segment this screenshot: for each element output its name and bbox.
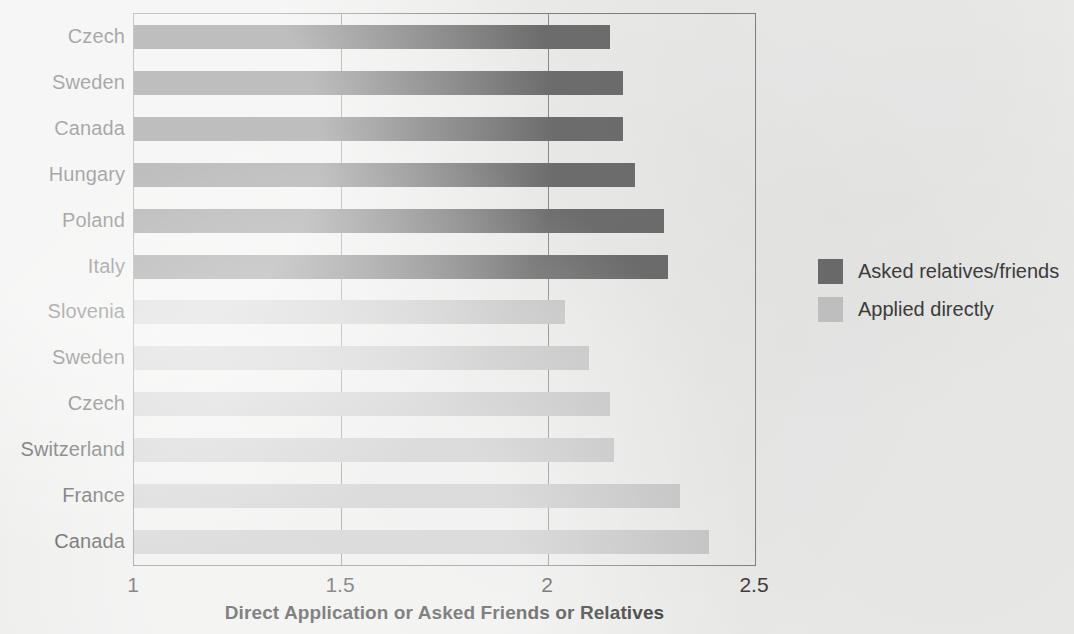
bar-row: [134, 438, 755, 462]
legend-label: Applied directly: [858, 297, 994, 321]
bar-row: [134, 25, 755, 49]
category-label: Poland: [0, 208, 125, 232]
category-label: Canada: [0, 116, 125, 140]
legend-item[interactable]: Asked relatives/friends: [818, 252, 1068, 290]
category-label: Czech: [0, 391, 125, 415]
category-axis-labels: CzechSwedenCanadaHungaryPolandItalySlove…: [0, 13, 125, 566]
gridline: [341, 14, 342, 565]
bar-row: [134, 255, 755, 279]
category-label: Slovenia: [0, 299, 125, 323]
bar-row: [134, 392, 755, 416]
category-label: France: [0, 483, 125, 507]
bar[interactable]: [134, 530, 709, 554]
bar-row: [134, 209, 755, 233]
plot-area: [133, 13, 756, 566]
legend-swatch-icon: [818, 259, 843, 284]
bar[interactable]: [134, 346, 589, 370]
bar[interactable]: [134, 484, 680, 508]
bar-row: [134, 71, 755, 95]
category-label: Hungary: [0, 162, 125, 186]
x-tick-label: 1: [127, 572, 139, 598]
category-label: Canada: [0, 529, 125, 553]
bar[interactable]: [134, 209, 664, 233]
bar-row: [134, 300, 755, 324]
legend-label: Asked relatives/friends: [858, 259, 1059, 283]
x-tick-label: 2.5: [739, 572, 768, 598]
category-label: Italy: [0, 254, 125, 278]
bar-row: [134, 163, 755, 187]
x-tick-label: 2: [541, 572, 553, 598]
bar-row: [134, 346, 755, 370]
bar[interactable]: [134, 25, 610, 49]
bar[interactable]: [134, 300, 565, 324]
bar[interactable]: [134, 163, 635, 187]
category-label: Switzerland: [0, 437, 125, 461]
bar-row: [134, 530, 755, 554]
legend-item[interactable]: Applied directly: [818, 290, 1068, 328]
bar[interactable]: [134, 438, 614, 462]
bar-row: [134, 484, 755, 508]
x-tick-label: 1.5: [325, 572, 354, 598]
bar[interactable]: [134, 255, 668, 279]
bar[interactable]: [134, 392, 610, 416]
bar[interactable]: [134, 71, 623, 95]
x-axis-tick-labels: 11.522.5: [133, 572, 756, 600]
gridline: [548, 14, 549, 565]
bar[interactable]: [134, 117, 623, 141]
x-axis-title: Direct Application or Asked Friends or R…: [133, 602, 756, 624]
category-label: Sweden: [0, 345, 125, 369]
bar-row: [134, 117, 755, 141]
chart-legend: Asked relatives/friendsApplied directly: [818, 252, 1068, 328]
category-label: Czech: [0, 24, 125, 48]
category-label: Sweden: [0, 70, 125, 94]
legend-swatch-icon: [818, 297, 843, 322]
bar-chart: CzechSwedenCanadaHungaryPolandItalySlove…: [0, 0, 1074, 634]
